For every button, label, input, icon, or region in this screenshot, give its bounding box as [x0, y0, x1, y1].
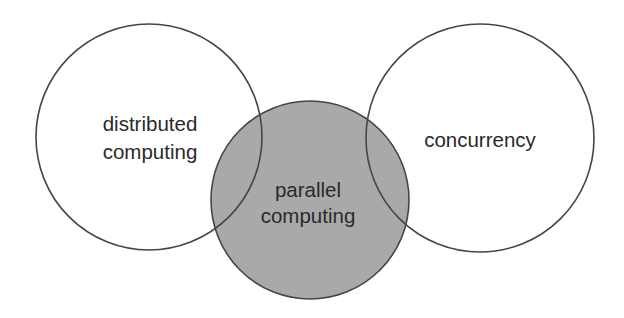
- distributed-computing-label-line2: computing: [103, 140, 198, 163]
- venn-diagram: distributed computing parallel computing…: [0, 0, 624, 318]
- concurrency-label: concurrency: [424, 128, 536, 151]
- distributed-computing-label-line1: distributed: [103, 112, 198, 135]
- parallel-computing-label-line2: computing: [261, 204, 356, 227]
- parallel-computing-label-line1: parallel: [275, 178, 341, 201]
